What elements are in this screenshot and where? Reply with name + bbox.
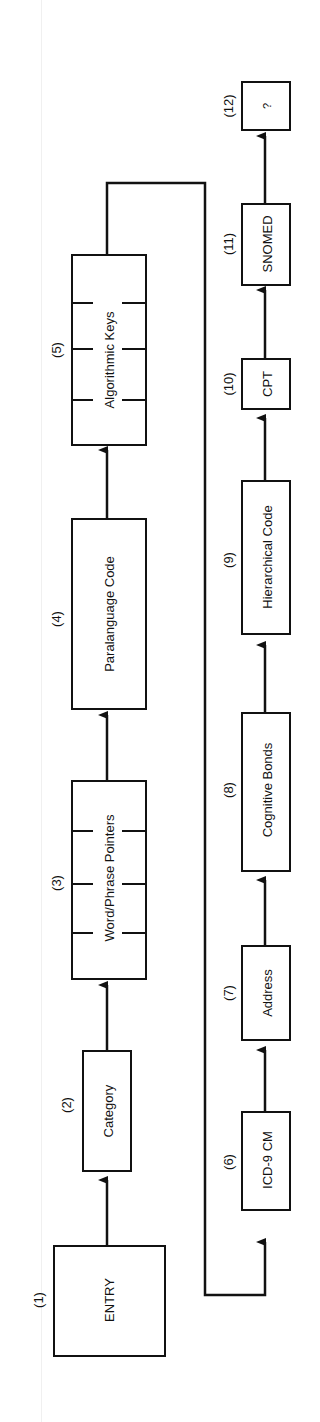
node-category-number: (2) bbox=[59, 1097, 74, 1113]
divider bbox=[122, 830, 145, 832]
node-hierarchical-code-number: (9) bbox=[221, 552, 236, 568]
divider bbox=[73, 932, 93, 934]
node-address-number: (7) bbox=[221, 985, 236, 1001]
divider bbox=[73, 399, 93, 401]
node-cpt-label: CPT bbox=[260, 371, 275, 397]
node-unknown-label: ? bbox=[261, 103, 273, 109]
node-paralanguage-code-number: (4) bbox=[49, 611, 64, 627]
node-unknown-number: (12) bbox=[221, 94, 236, 117]
divider bbox=[73, 348, 93, 350]
node-category-label: Category bbox=[101, 1085, 116, 1138]
node-word-phrase-pointers-label: Word/Phrase Pointers bbox=[102, 815, 117, 942]
node-icd9cm-label: ICD-9 CM bbox=[260, 1131, 275, 1189]
node-entry-number: (1) bbox=[31, 1292, 46, 1308]
node-hierarchical-code-label: Hierarchical Code bbox=[260, 505, 275, 608]
node-paralanguage-code-label: Paralanguage Code bbox=[102, 556, 117, 672]
divider bbox=[73, 830, 93, 832]
node-cpt-number: (10) bbox=[221, 372, 236, 395]
divider bbox=[122, 883, 145, 885]
node-entry-label: ENTRY bbox=[102, 1278, 117, 1322]
divider bbox=[122, 932, 145, 934]
node-address-label: Address bbox=[260, 969, 275, 1017]
node-cognitive-bonds-number: (8) bbox=[221, 782, 236, 798]
node-algorithmic-keys-number: (5) bbox=[49, 342, 64, 358]
divider bbox=[122, 302, 145, 304]
node-snomed-number: (11) bbox=[221, 233, 236, 255]
node-algorithmic-keys-label: Algorithmic Keys bbox=[102, 312, 117, 409]
node-cognitive-bonds-label: Cognitive Bonds bbox=[260, 743, 275, 838]
node-word-phrase-pointers-number: (3) bbox=[49, 875, 64, 891]
node-snomed-label: SNOMED bbox=[260, 215, 275, 272]
divider bbox=[122, 348, 145, 350]
divider bbox=[122, 399, 145, 401]
divider bbox=[73, 302, 93, 304]
divider bbox=[73, 883, 93, 885]
node-icd9cm-number: (6) bbox=[221, 1154, 236, 1170]
